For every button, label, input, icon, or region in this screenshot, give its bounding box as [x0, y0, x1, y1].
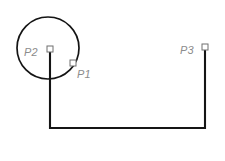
point-marker-p3[interactable]: [202, 44, 208, 50]
u-shaped-path: [50, 47, 205, 128]
point-label-p3: P3: [180, 44, 195, 56]
sketch-svg: P2 P1 P3: [0, 0, 225, 161]
point-marker-p1[interactable]: [70, 60, 76, 66]
point-marker-p2[interactable]: [47, 46, 53, 52]
point-label-p1: P1: [77, 68, 91, 80]
diagram-canvas: P2 P1 P3: [0, 0, 225, 161]
point-label-p2: P2: [24, 46, 38, 58]
